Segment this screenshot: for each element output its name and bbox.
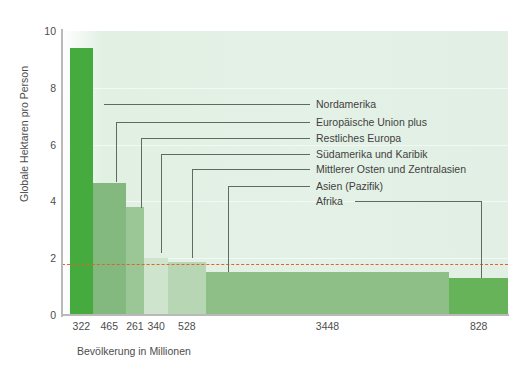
bar-asien-pazifik (206, 272, 450, 315)
chart-figure: 0246810 Globale Hektaren pro Person 3224… (0, 0, 532, 371)
x-tick-261: 261 (126, 320, 144, 332)
bar-restliches-europa (126, 207, 144, 315)
legend-label-nordamerika: Nordamerika (316, 98, 376, 110)
legend-label-europ-ische-union-plus: Europäische Union plus (316, 116, 427, 128)
y-axis-line (61, 29, 63, 317)
bar-s-damerika-und-karibik (144, 258, 168, 315)
y-tick-4: 4 (30, 195, 56, 207)
x-axis-label: Bevölkerung in Millionen (77, 345, 191, 357)
gridline (62, 145, 508, 146)
bar-afrika (449, 278, 508, 315)
x-tick-322: 322 (73, 320, 91, 332)
legend-label-asien-pazifik: Asien (Pazifik) (316, 180, 383, 192)
legend-label-restliches-europa: Restliches Europa (316, 132, 401, 144)
y-tick-2: 2 (30, 252, 56, 264)
gridline (62, 201, 508, 202)
y-tick-8: 8 (30, 82, 56, 94)
gridline (62, 88, 508, 89)
x-tick-528: 528 (178, 320, 196, 332)
legend-label-afrika: Afrika (316, 195, 343, 207)
y-axis-label: Globale Hektaren pro Person (18, 24, 30, 244)
x-tick-465: 465 (100, 320, 118, 332)
bar-europ-ische-union-plus (93, 183, 126, 315)
threshold-line (62, 264, 508, 265)
x-axis-line (61, 314, 509, 316)
legend-label-mittlerer-osten-und-zentralasien: Mittlerer Osten und Zentralasien (316, 163, 466, 175)
x-tick-340: 340 (147, 320, 165, 332)
x-tick-828: 828 (470, 320, 488, 332)
y-tick-10: 10 (30, 25, 56, 37)
bar-mittlerer-osten-und-zentralasien (168, 262, 205, 315)
y-tick-6: 6 (30, 139, 56, 151)
y-tick-0: 0 (30, 309, 56, 321)
x-tick-3448: 3448 (316, 320, 339, 332)
bar-nordamerika (70, 48, 93, 315)
legend-label-s-damerika-und-karibik: Südamerika und Karibik (316, 148, 427, 160)
